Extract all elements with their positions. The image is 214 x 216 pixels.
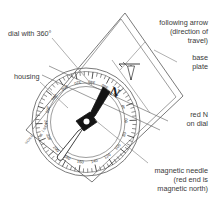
dial-tick-28 [95,165,96,172]
dial-number-300: 300 [60,84,69,92]
base-plate-label-line-0: base [192,53,208,62]
dial-number-group-15: 320 [73,80,81,86]
red-n-on-dial-label-line-0: red N [190,110,208,119]
dial-number-group-14: 300 [60,84,69,92]
dial-tick-1 [111,80,113,83]
needle-pivot-hole [84,119,90,125]
dial-tick-58 [52,84,55,87]
compass-diagram-figure: SCALE 1:25 1:50 [0,0,214,216]
dial-tick-10 [131,112,135,113]
dial-tick-42 [43,147,46,149]
dial-tick-62 [67,75,69,79]
leader-lines [40,38,177,163]
dial-tick-52 [38,106,45,108]
dial-tick-36 [62,160,65,166]
dial-number-group-11: 240 [43,120,48,128]
dial-number-80: 80 [121,131,127,138]
dial-tick-32 [79,165,80,172]
dial-tick-14 [132,128,136,129]
dial-number-group-3: 80 [121,131,127,138]
dial-tick-0 [106,77,109,83]
dial-tick-50 [36,115,40,116]
dial-tick-38 [55,159,57,162]
dial-tick-68 [92,72,93,79]
red-n-on-dial-label-line-1: on dial [186,119,208,128]
dial-tick-26 [103,165,105,169]
dial-tick-70 [100,74,101,78]
travel-arrow-head [128,66,135,80]
following-arrow-label-line-2: travel) [188,36,208,45]
dial-tick-5 [123,92,126,94]
dial-tick-39 [52,156,55,159]
dial-tick-71 [104,76,106,80]
dial-tick-6 [125,95,128,97]
dial-tick-41 [46,150,49,152]
magnetic-needle-label-line-2: magnetic north) [157,184,208,193]
magnetic-needle-label-line-0: magnetic needle [154,166,208,175]
dial-number-group-2: 60 [123,118,128,123]
dial-number-group-7: 160 [77,159,85,165]
dial-tick-7 [127,99,131,101]
dial-tick-37 [59,161,61,164]
dial-tick-57 [49,88,52,91]
magnetic-needle [57,87,110,160]
base-plate-label-line-1: plate [192,62,208,71]
following-arrow-label-line-0: following arrow [159,18,208,27]
dial-tick-54 [41,98,45,100]
dial-number-140: 140 [90,158,98,164]
dial-number-group-6: 140 [90,158,98,164]
dial-number-60: 60 [123,118,128,123]
dial-tick-15 [131,132,135,133]
diagram-canvas: SCALE 1:25 1:50 [0,0,214,216]
dial-tick-34 [70,166,71,170]
dial-tick-9 [130,107,134,108]
dial-tick-56 [46,91,52,95]
dial-tick-69 [96,73,97,77]
direction-of-travel-arrow [119,62,140,80]
dial-with-360-label-line-0: dial with 360° [8,29,52,38]
magnetic-needle-label-line-1: (red end is [174,175,209,184]
dial-number-240: 240 [43,120,48,128]
dial-tick-53 [40,102,44,104]
dial-number-160: 160 [77,159,85,165]
dial-tick-55 [44,95,47,97]
following-arrow-label-line-1: (direction of [170,27,209,36]
housing-label-line-0: housing [14,72,40,81]
dial-number-320: 320 [73,80,81,86]
base-plate-scale-text: SCALE [24,133,34,145]
dial-tick-16 [127,135,134,137]
dial-tick-35 [66,165,68,169]
dial-tick-18 [127,144,131,146]
dial-tick-40 [48,151,53,156]
dial-tick-51 [37,111,41,112]
leader-dial-with-360 [52,38,92,85]
dial-tick-61 [63,77,65,81]
